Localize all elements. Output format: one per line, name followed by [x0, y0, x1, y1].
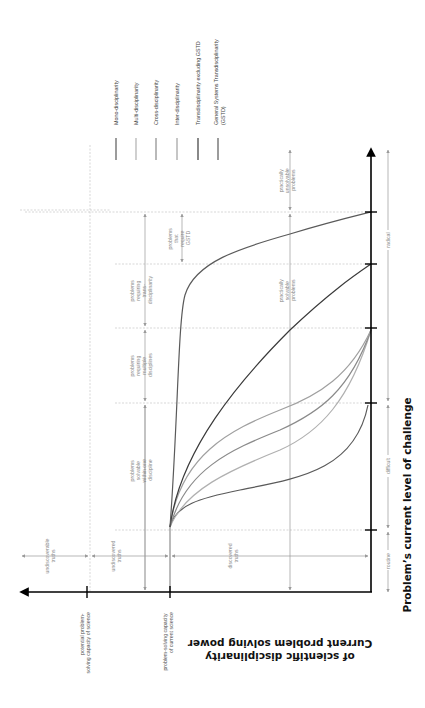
legend-item-trans: Transdisciplinarity excluding GSTD: [195, 41, 201, 160]
legend-item-inter: Inter-disciplinarity: [174, 83, 180, 160]
svg-text:undiscoverabletruths: undiscoverabletruths: [44, 538, 56, 573]
legend-label: (GSTD): [220, 106, 226, 125]
legend-item-mono: Mono-disciplinarity: [113, 80, 119, 160]
legend: Mono-disciplinarity Multi-disciplinarity…: [113, 39, 226, 160]
axes: [24, 152, 377, 598]
curve-trans: [170, 264, 371, 527]
svg-text:potential problem- solvi: potential problem- solving capacity of s…: [79, 612, 91, 674]
routine-label: routine: [385, 553, 391, 569]
disciplinarity-diagram: Mono-disciplinarity Multi-disciplinarity…: [0, 0, 425, 708]
curve-gstd: [170, 212, 371, 527]
legend-label: Transdisciplinarity excluding GSTD: [195, 41, 201, 125]
legend-label: Cross-disciplinarity: [153, 79, 159, 125]
curve-multi: [170, 330, 371, 527]
legend-label: General Systems Transdisciplinarity: [213, 39, 219, 125]
dashed-guides: [20, 145, 371, 592]
svg-text:problems requiring: problems requiring trans- disciplinarity: [129, 275, 153, 304]
svg-text:of scientific disciplinarity: of scientific disciplinarity: [205, 651, 355, 663]
curve-inter: [170, 330, 371, 527]
difficult-label: difficult: [385, 457, 391, 474]
problem-class-labels: problems solvable within one discipline …: [129, 227, 191, 483]
legend-label: Mono-disciplinarity: [113, 80, 119, 125]
svg-text:undiscoveredtruths: undiscoveredtruths: [110, 540, 122, 571]
svg-text:practically solvable: practically solvable problems: [278, 278, 296, 303]
radical-label: radical: [385, 232, 391, 247]
vertical-axis-title: Problem’s current level of challenge: [401, 397, 413, 612]
curve-cross: [170, 330, 371, 527]
curve-mono: [170, 405, 368, 527]
legend-label: Inter-disciplinarity: [174, 83, 180, 125]
legend-label: Multi-disciplinarity: [133, 82, 139, 125]
svg-text:problems requiring: problems requiring multiple disciplines: [129, 353, 153, 377]
svg-text:discoveredtruths: discoveredtruths: [227, 543, 239, 568]
legend-item-gstd: General Systems Transdisciplinarity (GST…: [213, 39, 226, 160]
svg-text:problems that requ: problems that require GSTD: [167, 227, 191, 250]
legend-item-cross: Cross-disciplinarity: [153, 79, 159, 160]
horizontal-axis-title: Current problem solving power of scienti…: [187, 638, 372, 663]
legend-item-multi: Multi-disciplinarity: [133, 82, 139, 160]
svg-text:Current problem solving power: Current problem solving power: [187, 638, 372, 650]
svg-text:problem-solving capacity: problem-solving capacity of current scie…: [162, 612, 174, 671]
svg-text:practically unsolvable: practically unsolvable problems: [278, 167, 296, 193]
curves: [170, 212, 371, 527]
horizontal-tick-labels: potential problem- solving capacity of s…: [79, 612, 174, 674]
svg-text:problems solvable: problems solvable within one discipline: [129, 458, 153, 483]
